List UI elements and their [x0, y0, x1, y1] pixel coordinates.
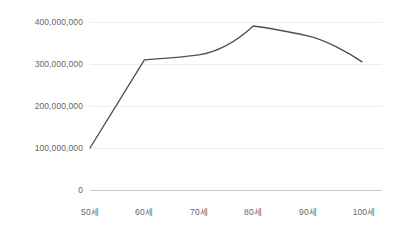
y-tick-label-100m: 100,000,000 [35, 143, 84, 153]
x-tick-label-90se: 90세 [299, 207, 317, 217]
x-tick-label-50se: 50세 [81, 207, 99, 217]
x-tick-label-100se: 100세 [353, 207, 376, 217]
y-tick-label-0: 0 [78, 185, 83, 195]
chart-background [0, 0, 394, 231]
x-tick-label-60se: 60세 [135, 207, 153, 217]
x-tick-label-80se: 80세 [244, 207, 262, 217]
x-tick-label-70se: 70세 [190, 207, 208, 217]
line-chart: 400,000,000 300,000,000 200,000,000 100,… [0, 0, 394, 231]
chart-container: 400,000,000 300,000,000 200,000,000 100,… [0, 0, 394, 231]
y-tick-label-300m: 300,000,000 [35, 59, 84, 69]
y-tick-label-400m: 400,000,000 [35, 17, 84, 27]
y-tick-label-200m: 200,000,000 [35, 101, 84, 111]
